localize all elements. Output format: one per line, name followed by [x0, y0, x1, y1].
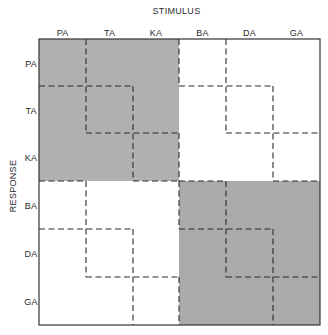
voiceless-block [39, 39, 179, 181]
column-label-ka: KA [150, 28, 162, 38]
column-label-ba: BA [196, 28, 208, 38]
voiced-block [179, 181, 320, 325]
row-label-ba: BA [25, 201, 37, 211]
y-axis-title: RESPONSE [8, 160, 18, 212]
row-label-ta: TA [25, 106, 36, 116]
row-label-ga: GA [24, 297, 37, 307]
column-label-ga: GA [290, 28, 303, 38]
confusion-diagram [0, 0, 328, 335]
row-label-pa: PA [25, 59, 37, 69]
column-label-da: DA [243, 28, 256, 38]
column-label-ta: TA [104, 28, 115, 38]
row-label-ka: KA [25, 153, 37, 163]
x-axis-title: STIMULUS [153, 6, 201, 16]
row-label-da: DA [25, 249, 38, 259]
column-label-pa: PA [57, 28, 69, 38]
